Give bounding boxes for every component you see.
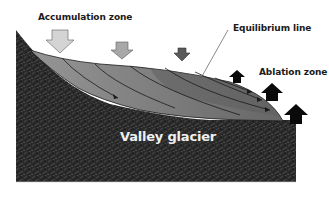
accumulation-arrows [46, 30, 190, 61]
equilibrium-line-leader [201, 30, 228, 78]
valley-glacier-label: Valley glacier [120, 129, 216, 144]
equilibrium-line-label: Equilibrium line [233, 23, 311, 33]
down-arrow-icon-small [174, 48, 190, 61]
ablation-zone-label: Ablation zone [259, 67, 327, 77]
up-arrow-icon-small [229, 70, 245, 83]
down-arrow-icon-medium [111, 42, 133, 59]
accumulation-zone-label: Accumulation zone [38, 12, 132, 22]
up-arrow-icon-medium [261, 83, 283, 101]
glacier-diagram: Accumulation zone Equilibrium line Ablat… [0, 0, 329, 205]
down-arrow-icon-large [46, 30, 74, 53]
